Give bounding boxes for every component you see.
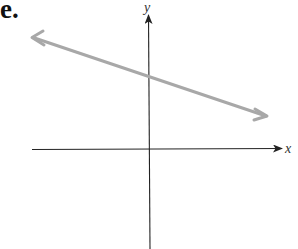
x-axis-label: x: [284, 141, 292, 156]
y-axis-label: y: [142, 0, 151, 15]
coordinate-plane: y x: [0, 0, 298, 249]
y-axis: [149, 15, 151, 249]
x-axis: [32, 149, 282, 150]
